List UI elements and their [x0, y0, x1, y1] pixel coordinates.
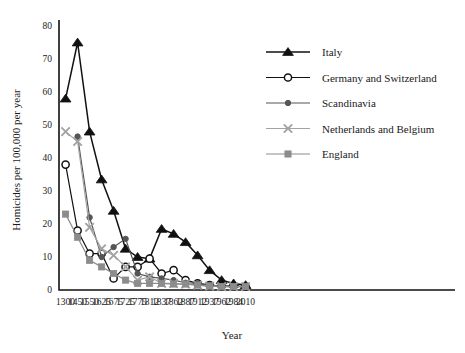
- marker-square: [99, 264, 105, 270]
- marker-square: [123, 277, 129, 283]
- marker-square: [147, 280, 153, 286]
- y-axis-tick-label: 30: [43, 186, 53, 196]
- marker-triangle: [96, 175, 107, 183]
- marker-square: [171, 281, 177, 287]
- marker-square: [231, 284, 237, 290]
- x-axis-title: Year: [222, 329, 243, 341]
- legend-item-germany-and-switzerland[interactable]: Germany and Switzerland: [266, 72, 437, 84]
- marker-open-circle: [170, 267, 177, 274]
- marker-x: [109, 251, 117, 259]
- y-axis-tick-label: 10: [43, 252, 53, 262]
- y-axis-tick-label: 70: [43, 54, 53, 64]
- y-axis-tick-label: 20: [43, 219, 53, 229]
- y-axis-tick-label: 80: [43, 21, 53, 31]
- marker-triangle: [108, 206, 119, 214]
- series-line: [66, 43, 246, 286]
- legend-label: Netherlands and Belgium: [322, 123, 435, 135]
- marker-square: [207, 283, 213, 289]
- marker-triangle: [84, 127, 95, 135]
- marker-x: [61, 127, 69, 135]
- legend-item-italy[interactable]: Italy: [266, 46, 343, 58]
- marker-filled-circle: [285, 100, 290, 105]
- marker-filled-circle: [123, 236, 128, 241]
- y-axis-tick-label: 40: [43, 153, 53, 163]
- marker-square: [75, 234, 81, 240]
- marker-triangle: [72, 38, 83, 46]
- marker-filled-circle: [111, 244, 116, 249]
- marker-square: [63, 211, 69, 217]
- marker-open-circle: [62, 161, 69, 168]
- homicide-rate-line-chart: 0102030405060708013001450155016251675172…: [0, 0, 465, 353]
- marker-open-circle: [146, 255, 153, 262]
- marker-square: [195, 282, 201, 288]
- marker-filled-circle: [99, 254, 104, 259]
- x-axis-tick-label: 2010: [236, 297, 255, 307]
- marker-square: [135, 280, 141, 286]
- marker-open-circle: [284, 74, 291, 81]
- y-axis-tick-label: 60: [43, 87, 53, 97]
- marker-triangle: [168, 230, 179, 238]
- marker-triangle: [204, 266, 215, 274]
- marker-square: [159, 280, 165, 286]
- marker-square: [87, 257, 93, 263]
- chart-canvas: 0102030405060708013001450155016251675172…: [0, 0, 465, 353]
- legend-item-scandinavia[interactable]: Scandinavia: [266, 97, 376, 109]
- y-axis-tick-label: 0: [47, 285, 52, 295]
- chart-axes: [59, 20, 455, 290]
- marker-square: [183, 281, 189, 287]
- marker-square: [285, 151, 291, 157]
- marker-triangle: [156, 225, 167, 233]
- marker-triangle: [60, 94, 71, 102]
- legend-label: Italy: [322, 46, 343, 58]
- legend-label: Germany and Switzerland: [322, 72, 437, 84]
- legend-item-netherlands-and-belgium[interactable]: Netherlands and Belgium: [266, 123, 435, 135]
- marker-square: [219, 284, 225, 290]
- y-axis-tick-label: 50: [43, 120, 53, 130]
- legend-label: England: [322, 148, 359, 160]
- marker-square: [243, 284, 249, 290]
- legend-item-england[interactable]: England: [266, 148, 359, 160]
- legend-label: Scandinavia: [322, 97, 376, 109]
- marker-filled-circle: [135, 271, 140, 276]
- marker-square: [111, 270, 117, 276]
- y-axis-title: Homicides per 100,000 per year: [10, 89, 22, 231]
